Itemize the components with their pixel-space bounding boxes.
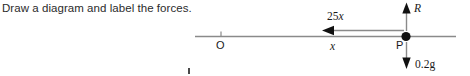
horizontal-force-label: 25x [327,10,344,22]
horizontal-force-magnitude: 25 [327,10,339,22]
origin-label: O [216,39,225,51]
weight-force-label: 0.2g [415,58,435,70]
horizontal-force-arrow [322,26,404,35]
force-diagram [0,0,470,76]
normal-force-label: R [414,2,421,14]
worksheet-diagram-panel: Draw a diagram and label the forces. 25x… [0,0,470,76]
point-p-label: P [396,39,403,51]
weight-force-arrow [402,42,410,69]
distance-label: x [330,40,335,52]
stray-ink-mark [188,68,190,74]
normal-force-arrow [402,3,410,32]
horizontal-force-variable: x [339,10,344,22]
